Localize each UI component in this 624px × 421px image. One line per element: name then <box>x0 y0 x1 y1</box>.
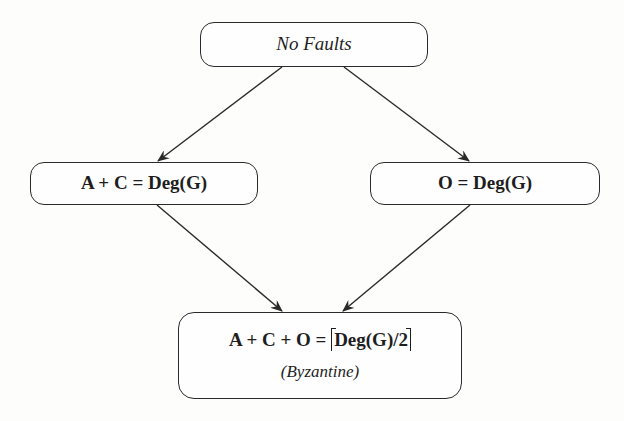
arrow-top-to-left <box>158 67 282 161</box>
diagram-canvas: No Faults A + C = Deg(G) O = Deg(G) A + … <box>0 0 624 421</box>
node-byzantine: A + C + O = Deg(G)/2 (Byzantine) <box>178 312 462 399</box>
node-a-plus-c: A + C = Deg(G) <box>30 162 258 205</box>
formula-prefix: A + C + O = <box>229 329 331 350</box>
node-a-plus-c-label: A + C = Deg(G) <box>81 172 207 195</box>
node-byzantine-sublabel: (Byzantine) <box>281 362 359 382</box>
arrow-top-to-right <box>344 67 469 161</box>
node-no-faults: No Faults <box>200 22 428 67</box>
ceiling-bracket: Deg(G)/2 <box>331 329 411 352</box>
arrow-left-to-bottom <box>157 205 282 311</box>
node-byzantine-formula: A + C + O = Deg(G)/2 <box>229 329 411 352</box>
node-o-label: O = Deg(G) <box>438 172 532 195</box>
formula-ceil-content: Deg(G)/2 <box>334 329 408 350</box>
node-o: O = Deg(G) <box>370 162 600 205</box>
arrow-right-to-bottom <box>343 205 470 311</box>
node-no-faults-label: No Faults <box>276 33 351 56</box>
